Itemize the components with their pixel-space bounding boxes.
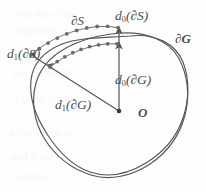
label-d0-boundary-G: d0(∂G)	[115, 73, 151, 88]
origin-point	[117, 109, 122, 114]
label-d0-boundary-S: d0(∂S)	[115, 9, 148, 24]
label-d1-boundary-S: d1(∂S)	[7, 47, 40, 62]
label-boundary-S: ∂S	[71, 14, 84, 27]
label-boundary-G: ∂G	[175, 32, 191, 45]
label-origin: O	[138, 106, 147, 119]
arrow-vector-d0-dG	[115, 26, 123, 111]
figure-container: the the of the completely surrounded and…	[0, 0, 206, 192]
figure-drawing	[0, 0, 206, 192]
label-d1-boundary-G: d1(∂G)	[55, 98, 91, 113]
